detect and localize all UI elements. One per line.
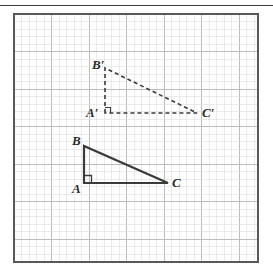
- figure-canvas: [0, 0, 273, 276]
- vertex-label-a: A: [72, 182, 81, 195]
- geometry-figure: B′ A′ C′ B A C: [0, 0, 273, 276]
- vertex-label-b-prime: B′: [92, 58, 104, 71]
- vertex-label-c: C: [172, 176, 181, 189]
- vertex-label-b: B: [72, 134, 81, 147]
- vertex-label-a-prime: A′: [86, 106, 98, 119]
- vertex-label-c-prime: C′: [202, 106, 214, 119]
